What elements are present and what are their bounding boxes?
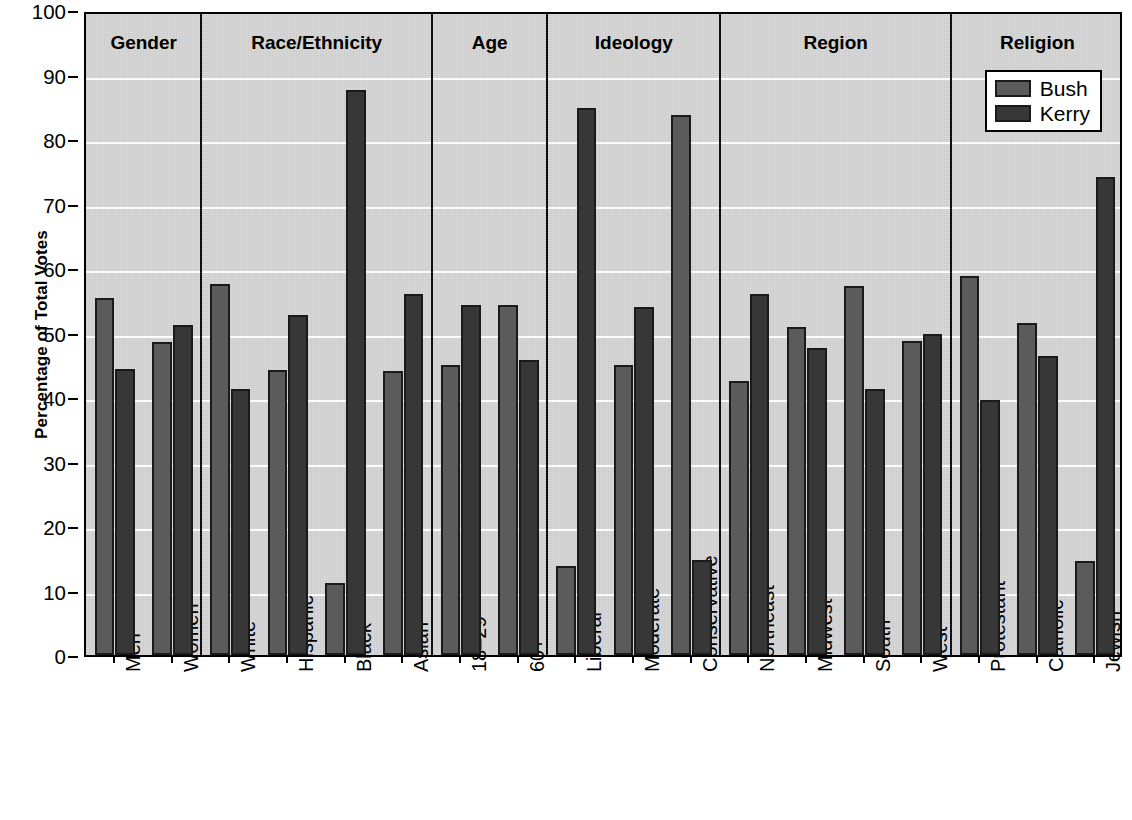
group-separator [546,14,548,655]
group-header-ideology: Ideology [595,32,673,54]
bar-kerry [346,90,366,655]
bar-kerry [231,389,251,655]
y-axis-ticks: 0102030405060708090100 [0,0,84,680]
bar-bush [268,370,288,655]
x-tick-mark [171,657,173,663]
bar-bush [729,381,749,655]
x-tick-mark [574,657,576,663]
legend-item-bush: Bush [995,78,1090,99]
legend-swatch-kerry [995,105,1031,122]
gridline [86,207,1120,209]
bar-bush [210,284,230,655]
bar-kerry [865,389,885,655]
gridline [86,78,1120,80]
x-tick-mark [344,657,346,663]
bar-kerry [923,334,943,655]
group-separator [431,14,433,655]
y-tick-label: 20 [43,516,66,540]
y-tick-label: 0 [55,645,66,669]
bar-bush [902,341,922,655]
group-separator [950,14,952,655]
legend: Bush Kerry [985,70,1102,132]
x-tick-mark [517,657,519,663]
bar-bush [671,115,691,655]
group-header-region: Region [803,32,867,54]
bar-bush [498,305,518,655]
chart-root: Percentage of Total Votes 01020304050607… [0,0,1132,820]
x-tick-mark [1036,657,1038,663]
y-tick-label: 80 [43,129,66,153]
y-tick-label: 90 [43,65,66,89]
bar-bush [787,327,807,655]
legend-item-kerry: Kerry [995,103,1090,124]
x-tick-mark [978,657,980,663]
group-header-religion: Religion [1000,32,1075,54]
group-separator [719,14,721,655]
group-separator [200,14,202,655]
bar-kerry [577,108,597,655]
y-tick-label: 100 [32,0,66,24]
bar-kerry [519,360,539,655]
bar-bush [95,298,115,655]
x-tick-mark [920,657,922,663]
bar-kerry [173,325,193,655]
bar-bush [614,365,634,655]
y-tick-mark [68,269,78,271]
x-tick-mark [747,657,749,663]
y-tick-label: 60 [43,258,66,282]
bar-bush [844,286,864,655]
x-tick-mark [690,657,692,663]
group-header-race-ethnicity: Race/Ethnicity [251,32,382,54]
x-tick-mark [401,657,403,663]
y-tick-label: 30 [43,452,66,476]
bar-bush [960,276,980,655]
x-tick-mark [632,657,634,663]
y-tick-label: 10 [43,581,66,605]
legend-label-bush: Bush [1040,78,1088,99]
bar-bush [325,583,345,655]
bar-kerry [807,348,827,655]
x-tick-mark [113,657,115,663]
gridline [86,142,1120,144]
y-tick-mark [68,205,78,207]
bar-kerry [634,307,654,655]
y-tick-mark [68,398,78,400]
legend-swatch-bush [995,80,1031,97]
y-tick-mark [68,463,78,465]
bar-kerry [404,294,424,655]
bar-bush [1017,323,1037,655]
plot-area: GenderRace/EthnicityAgeIdeologyRegionRel… [84,12,1122,657]
bar-bush [556,566,576,655]
x-tick-mark [459,657,461,663]
gridline [86,271,1120,273]
bar-kerry [750,294,770,655]
y-tick-label: 40 [43,387,66,411]
x-tick-mark [286,657,288,663]
x-tick-mark [805,657,807,663]
bar-bush [383,371,403,655]
group-header-gender: Gender [110,32,177,54]
bar-bush [152,342,172,655]
y-tick-mark [68,656,78,658]
y-tick-mark [68,140,78,142]
y-tick-label: 50 [43,323,66,347]
y-tick-mark [68,592,78,594]
bar-kerry [980,400,1000,655]
x-tick-mark [228,657,230,663]
x-tick-mark [863,657,865,663]
bar-bush [1075,561,1095,655]
bar-bush [441,365,461,655]
y-tick-mark [68,11,78,13]
bar-kerry [115,369,135,655]
x-tick-mark [1093,657,1095,663]
bar-kerry [692,560,712,655]
bar-kerry [1096,177,1116,655]
y-tick-mark [68,334,78,336]
group-header-age: Age [472,32,508,54]
bar-kerry [461,305,481,655]
bar-kerry [288,315,308,655]
y-tick-label: 70 [43,194,66,218]
legend-label-kerry: Kerry [1040,103,1090,124]
y-tick-mark [68,76,78,78]
bar-kerry [1038,356,1058,655]
